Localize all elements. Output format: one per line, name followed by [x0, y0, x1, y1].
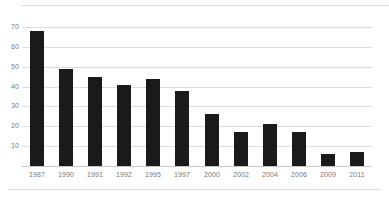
bar: [30, 31, 44, 166]
bar: [321, 154, 335, 166]
bar: [350, 152, 364, 166]
x-axis-tick-label: 2009: [313, 170, 343, 180]
bar-series: [22, 27, 372, 166]
x-axis-tick-label: 1990: [51, 170, 81, 180]
y-axis-tick-label: 70: [3, 23, 19, 30]
bar: [292, 132, 306, 166]
x-axis-tick-label: 2002: [226, 170, 256, 180]
x-axis-tick-label: 2011: [342, 170, 372, 180]
x-axis-tick-label: 1995: [138, 170, 168, 180]
bar: [205, 114, 219, 166]
x-axis-tick-label: 2006: [284, 170, 314, 180]
bar: [234, 132, 248, 166]
bar: [88, 77, 102, 166]
y-axis-tick-label: 30: [3, 102, 19, 109]
y-axis-tick-label: 40: [3, 83, 19, 90]
bar: [175, 91, 189, 166]
axis-baseline: [22, 166, 372, 167]
bar-chart-figure: 10203040506070 1987199019911992199519972…: [0, 0, 389, 197]
bar: [59, 69, 73, 166]
y-axis: 10203040506070: [0, 27, 19, 166]
y-axis-tick-label: 10: [3, 142, 19, 149]
x-axis-tick-label: 1987: [22, 170, 52, 180]
y-axis-tick-label: 50: [3, 63, 19, 70]
x-axis-tick-label: 2004: [255, 170, 285, 180]
bar: [146, 79, 160, 166]
y-axis-tick-label: 60: [3, 43, 19, 50]
bar: [263, 124, 277, 166]
plot-area: [22, 27, 372, 166]
x-axis-tick-label: 1997: [167, 170, 197, 180]
x-axis: 1987199019911992199519972000200220042006…: [22, 170, 372, 182]
x-axis-tick-label: 1991: [80, 170, 110, 180]
bottom-divider-rule: [8, 189, 381, 190]
x-axis-tick-label: 2000: [197, 170, 227, 180]
y-axis-tick-label: 20: [3, 122, 19, 129]
x-axis-tick-label: 1992: [109, 170, 139, 180]
top-divider-rule: [22, 5, 389, 6]
bar: [117, 85, 131, 166]
